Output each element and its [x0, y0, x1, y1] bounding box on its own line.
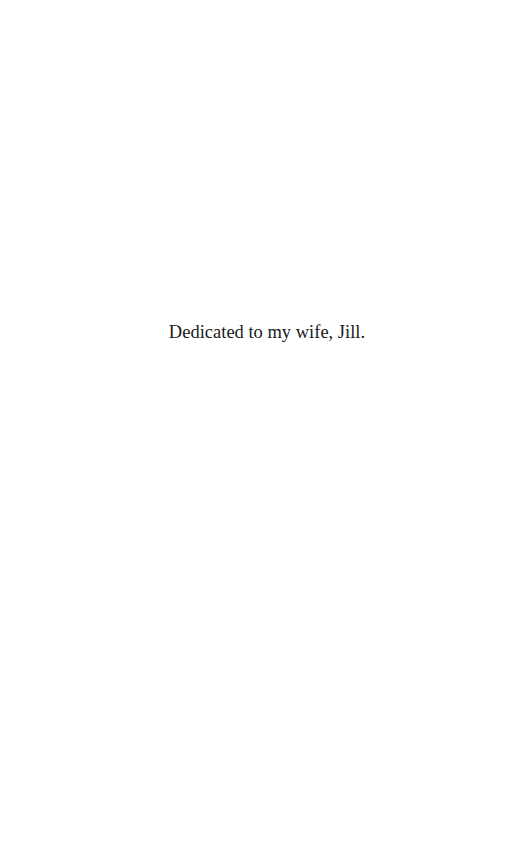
dedication-text: Dedicated to my wife, Jill.	[0, 320, 528, 344]
document-page: Dedicated to my wife, Jill.	[0, 0, 528, 863]
